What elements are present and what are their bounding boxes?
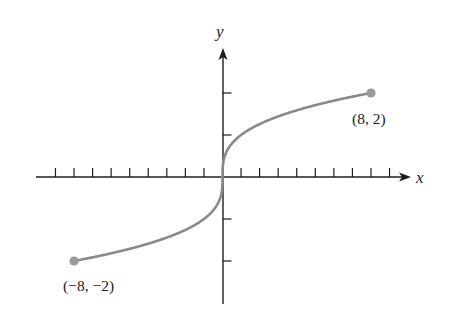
y-axis-label: y: [214, 22, 224, 41]
cube-root-graph: x y (8, 2) (−8, −2): [0, 0, 450, 321]
endpoint-dot-left: [69, 256, 78, 265]
point-label-left: (−8, −2): [63, 277, 114, 295]
point-label-right: (8, 2): [352, 110, 386, 128]
x-axis-label: x: [415, 168, 424, 187]
endpoint-dot-right: [366, 88, 375, 97]
y-axis: [219, 48, 232, 304]
